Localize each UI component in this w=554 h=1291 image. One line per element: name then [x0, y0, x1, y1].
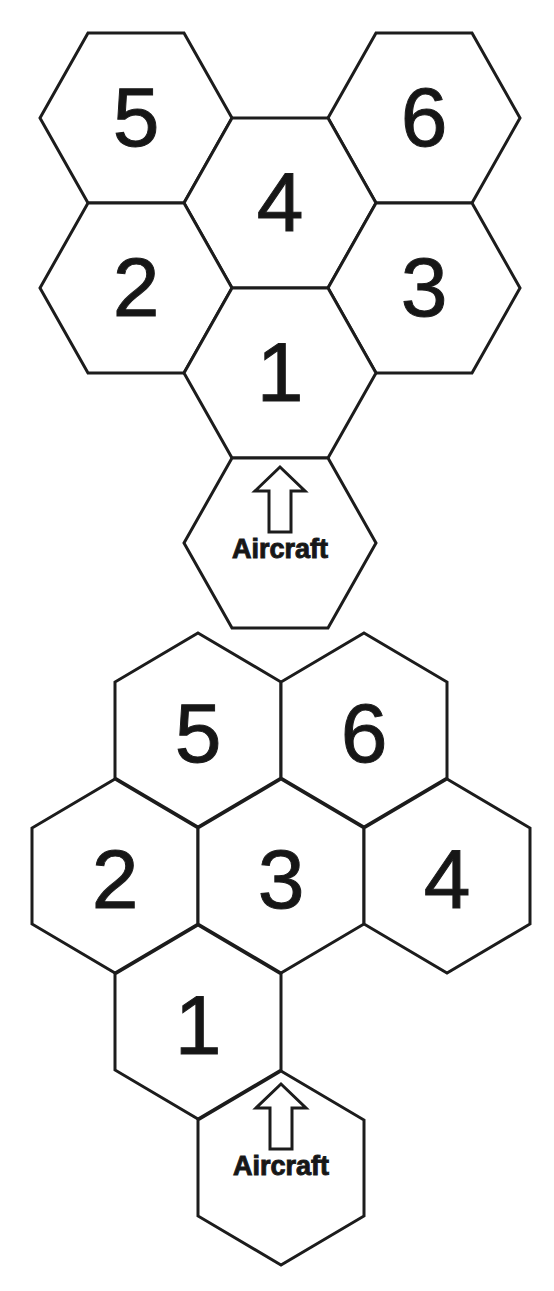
hex-pattern-figure: 5 6 4 2 3 1 Aircraft 5 6 2 3 4 1 Aircra [0, 0, 554, 1291]
aircraft-label: Aircraft [232, 534, 328, 564]
diagram-pointy-top: 5 6 2 3 4 1 Aircraft [32, 633, 530, 1265]
hex-cell-number: 2 [92, 832, 139, 926]
hex-cell-number: 6 [341, 686, 388, 780]
hex-pattern-canvas: 5 6 4 2 3 1 Aircraft 5 6 2 3 4 1 Aircra [0, 0, 554, 1291]
hex-cell-number: 1 [175, 978, 222, 1072]
hex-cell-number: 5 [175, 686, 222, 780]
hex-cell-number: 1 [257, 325, 304, 419]
hex-cell-number: 5 [113, 70, 160, 164]
hex-cell-number: 6 [401, 70, 448, 164]
hex-cell-number: 3 [258, 832, 305, 926]
hex-cell-number: 4 [257, 155, 304, 249]
aircraft-label: Aircraft [233, 1151, 329, 1181]
hex-cell-number: 3 [401, 240, 448, 334]
hex-cell-number: 2 [113, 240, 160, 334]
hex-cell-number: 4 [424, 832, 471, 926]
diagram-flat-top: 5 6 4 2 3 1 Aircraft [40, 33, 520, 628]
